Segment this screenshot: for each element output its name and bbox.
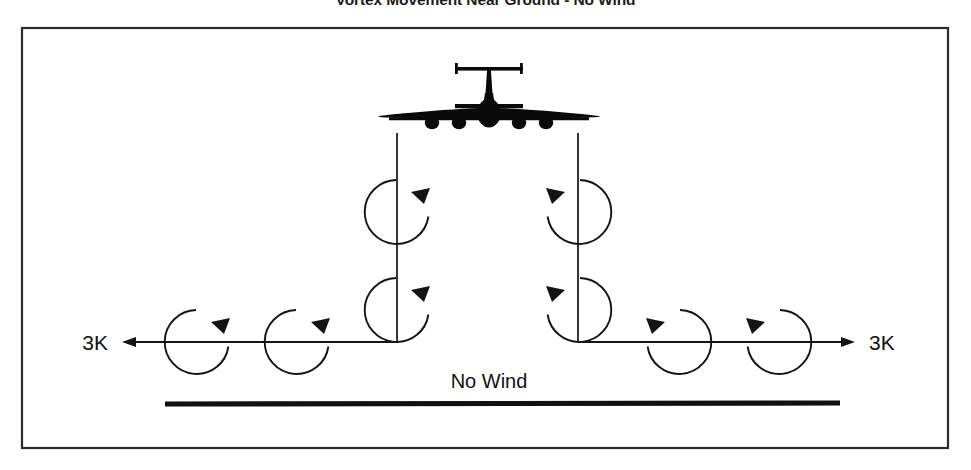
right-speed-label: 3K (869, 331, 895, 354)
no-wind-label: No Wind (451, 370, 528, 392)
ground-surface-line (165, 403, 840, 404)
diagram-canvas: 3K 3K No Wind (0, 0, 971, 470)
vortex-diagram-figure: Vortex Movement Near Ground - No Wind (0, 0, 971, 470)
left-speed-label: 3K (82, 331, 108, 354)
